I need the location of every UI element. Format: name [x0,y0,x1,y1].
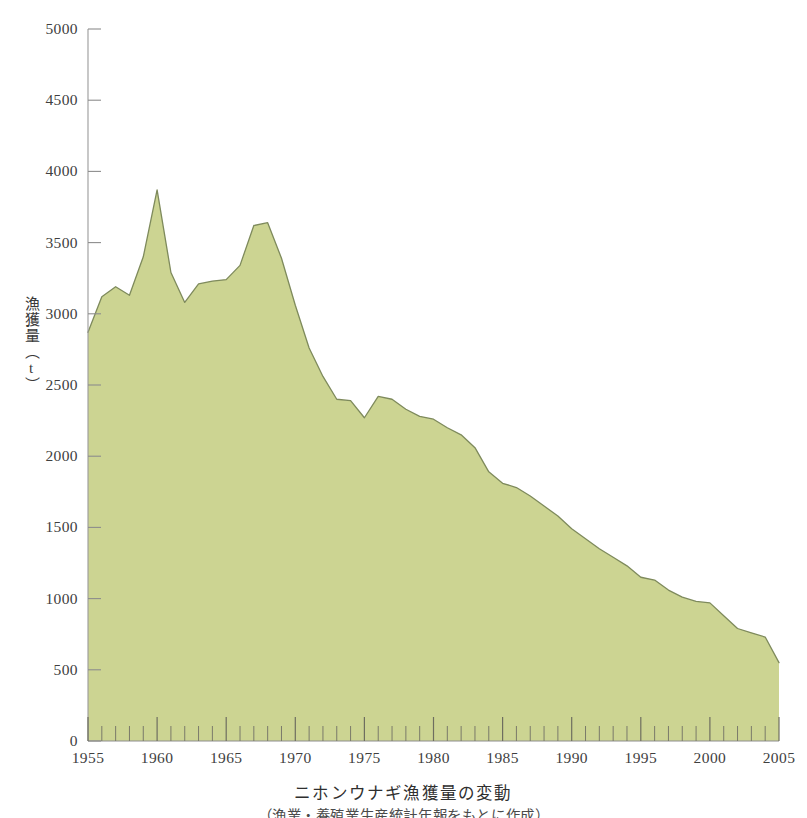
y-tick-label: 0 [8,732,78,750]
x-tick-label: 2005 [739,749,807,767]
x-tick-label: 1985 [463,749,543,767]
y-tick-label: 1500 [8,518,78,536]
y-tick-label: 5000 [8,20,78,38]
x-tick-label: 1980 [394,749,474,767]
x-tick-label: 1955 [48,749,128,767]
chart-title: ニホンウナギ漁獲量の変動 [0,780,807,804]
y-tick-label: 500 [8,661,78,679]
x-tick-label: 1960 [117,749,197,767]
x-tick-label: 1990 [532,749,612,767]
y-tick-label: 3500 [8,234,78,252]
x-tick-label: 1970 [255,749,335,767]
y-tick-label: 2000 [8,447,78,465]
x-tick-label: 1975 [324,749,404,767]
y-tick-label: 4500 [8,91,78,109]
x-tick-label: 1965 [186,749,266,767]
chart-figure: 0500100015002000250030003500400045005000… [0,0,807,818]
y-axis-title: 漁獲量（t） [12,296,38,393]
chart-plot-area [0,0,807,818]
catch-area-path [88,190,779,741]
y-tick-label: 1000 [8,590,78,608]
chart-subtitle: （漁業・養殖業生産統計年報をもとに作成） [0,804,807,818]
x-tick-label: 2000 [670,749,750,767]
y-tick-label: 4000 [8,162,78,180]
area-series [88,190,779,741]
x-tick-label: 1995 [601,749,681,767]
